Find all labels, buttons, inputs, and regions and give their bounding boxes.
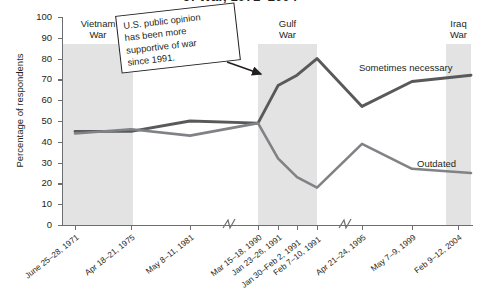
- series-label-outdated: Outdated: [417, 158, 456, 169]
- chart-root: of War, 1971–2004 Percentage of responde…: [0, 0, 480, 297]
- annotation-arrow-icon: [225, 58, 281, 84]
- series-line-outdated: [75, 123, 471, 188]
- series-label-sometimes-necessary: Sometimes necessary: [359, 62, 452, 73]
